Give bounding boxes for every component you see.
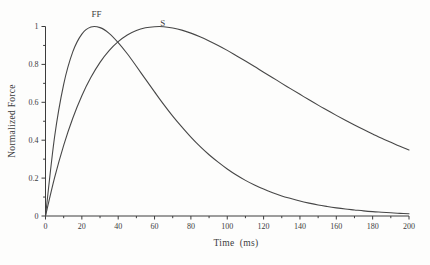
- x-axis-title: Time (ms): [214, 238, 259, 249]
- y-tick-label: 0: [35, 212, 39, 221]
- y-tick-label: 0.2: [29, 174, 39, 183]
- curve-ff: [46, 26, 410, 216]
- x-tick-label: 140: [294, 222, 306, 231]
- y-tick-label: 0.8: [29, 60, 39, 69]
- axes: [46, 27, 410, 217]
- curve-labels: FFS: [91, 9, 165, 28]
- curves: [46, 26, 410, 216]
- curve-s: [46, 27, 410, 216]
- y-tick-label: 0.4: [29, 136, 39, 145]
- x-tick-label: 80: [187, 222, 195, 231]
- x-tick-label: 20: [78, 222, 86, 231]
- x-tick-label: 100: [221, 222, 233, 231]
- x-tick-label: 160: [330, 222, 342, 231]
- x-tick-label: 0: [44, 222, 48, 231]
- y-tick-label: 0.6: [29, 98, 39, 107]
- axis-lines: [46, 27, 410, 217]
- x-tick-label: 40: [114, 222, 122, 231]
- x-tick-label: 60: [151, 222, 159, 231]
- y-tick-label: 1: [35, 22, 39, 31]
- x-tick-label: 180: [367, 222, 379, 231]
- x-tick-label: 200: [403, 222, 415, 231]
- y-axis-title: Normalized Force: [7, 84, 17, 158]
- axis-ticks: [42, 27, 410, 220]
- figure-page: 02040608010012014016018020000.20.40.60.8…: [0, 0, 430, 265]
- twitch-force-chart: 02040608010012014016018020000.20.40.60.8…: [0, 0, 430, 265]
- curve-label-ff: FF: [91, 9, 101, 19]
- curve-label-s: S: [160, 18, 165, 28]
- x-tick-label: 120: [258, 222, 270, 231]
